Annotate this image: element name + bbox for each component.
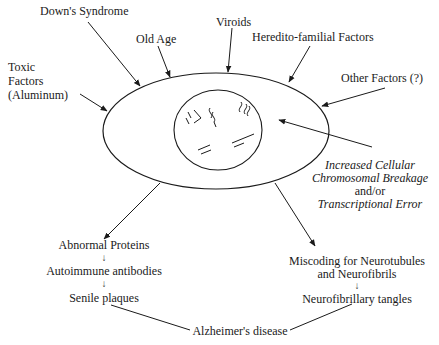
label-toxic-1: Toxic (8, 60, 35, 74)
arrow-viroids (228, 28, 232, 72)
label-toxic-3: (Aluminum) (8, 88, 68, 102)
label-toxic-2: Factors (8, 74, 43, 88)
arrow-other (322, 88, 385, 106)
label-abnormal-proteins: Abnormal Proteins (20, 238, 188, 252)
down-arrow-icon: ↓ (20, 253, 188, 263)
label-other-factors: Other Factors (?) (341, 71, 423, 85)
label-viroids: Viroids (216, 15, 251, 29)
chromosome-fragments-icon (186, 102, 254, 154)
label-neurofibrillary-tangles: Neurofibrillary tangles (275, 292, 439, 306)
label-increased-cellular: Increased Cellular (300, 158, 439, 172)
arrow-toxic (80, 94, 107, 111)
arrow-hereditary (289, 46, 310, 82)
label-and-or: and/or (300, 184, 439, 198)
label-neurofibrils: and Neurofibrils (275, 267, 439, 281)
label-alzheimers-disease: Alzheimer's disease (180, 324, 300, 338)
label-miscoding: Miscoding for Neurotubules (275, 254, 439, 268)
nucleus-circle (174, 90, 262, 170)
label-autoimmune-antibodies: Autoimmune antibodies (20, 264, 188, 278)
arrow-breakage (279, 120, 372, 147)
arrow-to-left-branch (104, 183, 160, 239)
down-arrow-icon: ↓ (275, 281, 439, 291)
line-plaques-to-ad (111, 305, 190, 330)
label-downs-syndrome: Down's Syndrome (40, 4, 129, 18)
label-hereditary: Heredito-familial Factors (252, 30, 374, 44)
label-transcriptional-error: Transcriptional Error (300, 197, 439, 211)
label-chromosomal-breakage: Chromosomal Breakage (300, 171, 439, 185)
label-senile-plaques: Senile plaques (20, 291, 188, 305)
label-old-age: Old Age (136, 32, 176, 46)
arrow-old-age (158, 46, 170, 77)
arrow-downs (88, 22, 140, 86)
down-arrow-icon: ↓ (20, 279, 188, 289)
